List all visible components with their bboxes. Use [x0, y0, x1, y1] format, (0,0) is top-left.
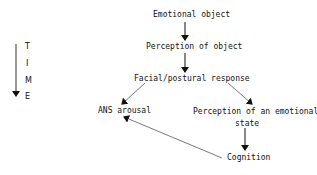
arrow-facial-to-emotional-state: [228, 83, 252, 104]
time-letter-e: E: [25, 92, 30, 101]
node-perception-of-object: Perception of object: [146, 42, 242, 52]
arrow-cognition-to-ans: [124, 117, 222, 158]
node-cognition: Cognition: [227, 153, 270, 163]
arrow-facial-to-ans: [122, 83, 145, 104]
node-perception-emotional-state-line2: state: [235, 119, 259, 129]
node-perception-emotional-state-line1: Perception of an emotional: [193, 107, 317, 117]
time-letter-t: T: [25, 42, 30, 51]
node-facial-postural-response: Facial/postural response: [134, 74, 250, 84]
diagram-arrows: [0, 0, 317, 175]
node-ans-arousal: ANS arousal: [98, 106, 151, 116]
node-emotional-object: Emotional object: [153, 10, 230, 20]
time-letter-m: M: [25, 76, 32, 85]
time-letter-i: I: [26, 59, 28, 68]
